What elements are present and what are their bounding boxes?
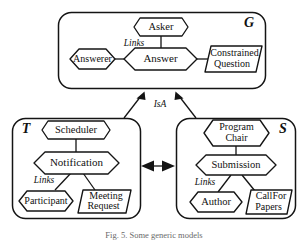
node-participant-label: Participant	[24, 195, 68, 206]
node-program-chair-label-line1: Program	[219, 121, 254, 132]
node-answerer-label: Answerer	[73, 53, 113, 64]
node-author-label: Author	[201, 196, 231, 207]
t-s-arrowhead-left	[141, 161, 154, 172]
node-meeting-request-label-line2: Request	[87, 200, 119, 211]
node-submission-label: Submission	[211, 159, 261, 170]
isa-arrow-line-left	[124, 96, 141, 118]
node-program-chair-label-line2: Chair	[225, 132, 248, 143]
group-label-G: G	[244, 15, 254, 30]
node-callfor-papers-label-line1: CallFor	[256, 190, 287, 201]
figure-diagram: G Constrained Question Answerer Answer A…	[0, 0, 308, 240]
node-answer-label: Answer	[143, 52, 178, 64]
figure-caption: Fig. 5. Some generic models	[105, 230, 202, 240]
node-notification-label: Notification	[50, 156, 104, 168]
relation-label-isa: IsA	[153, 99, 167, 109]
isa-arrowhead-right	[175, 92, 184, 101]
t-s-arrowhead-right	[162, 161, 175, 172]
link-label-S: Links	[194, 177, 216, 187]
node-scheduler-label: Scheduler	[55, 124, 97, 135]
node-asker-label: Asker	[148, 21, 174, 32]
isa-arrow-line-right	[179, 96, 196, 118]
group-label-S: S	[279, 121, 287, 136]
isa-arrowhead-left	[137, 92, 146, 101]
node-callfor-papers-label-line2: Papers	[255, 201, 282, 212]
link-label-T: Links	[33, 175, 55, 185]
group-label-T: T	[22, 121, 32, 136]
node-constrained-question-label-line2: Question	[214, 58, 250, 69]
link-label-G: Links	[123, 38, 145, 48]
node-constrained-question-label-line1: Constrained	[210, 47, 258, 58]
